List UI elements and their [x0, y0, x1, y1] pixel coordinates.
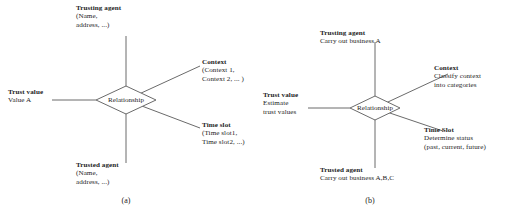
diagram-panel-b: Relationship Trusting agent Carry out bu…	[258, 0, 516, 218]
node-context-b-heading: Context	[434, 64, 481, 72]
node-trusting-agent-b: Trusting agent Carry out business A	[320, 29, 381, 46]
node-trust-value-a-detail1: Value A	[8, 96, 43, 104]
node-time-slot-b-detail1: Determine status	[424, 134, 486, 142]
node-trusting-agent-a-heading: Trusting agent	[76, 4, 121, 12]
caption-b: (b)	[340, 196, 400, 205]
node-time-slot-a-detail1: (Time slot1,	[202, 129, 245, 137]
node-context-a-detail2: Context 2, ... )	[202, 75, 244, 83]
figure-container: Relationship Trusting agent (Name, addre…	[0, 0, 516, 218]
node-trust-value-b-detail2: trust values	[263, 108, 298, 116]
diagram-panel-a: Relationship Trusting agent (Name, addre…	[0, 0, 258, 218]
node-trusted-agent-a-detail2: address, ...)	[76, 178, 119, 186]
diagram-a-lines	[0, 0, 258, 218]
node-trusted-agent-b-detail1: Carry out business A,B,C	[320, 174, 394, 182]
node-trusting-agent-a-detail1: (Name,	[76, 12, 121, 20]
node-context-b-detail2: into categories	[434, 81, 481, 89]
node-trusting-agent-b-heading: Trusting agent	[320, 29, 381, 37]
node-context-a-detail1: (Context 1,	[202, 66, 244, 74]
node-time-slot-a: Time slot (Time slot1, Time slot2, ...)	[202, 121, 245, 146]
node-context-a: Context (Context 1, Context 2, ... )	[202, 58, 244, 83]
node-context-a-heading: Context	[202, 58, 244, 66]
node-time-slot-a-heading: Time slot	[202, 121, 245, 129]
node-time-slot-b-heading: Time Slot	[424, 126, 486, 134]
node-trust-value-a: Trust value Value A	[8, 88, 43, 105]
node-context-b: Context Classify context into categories	[434, 64, 481, 89]
node-trust-value-b-detail1: Estimate	[263, 99, 298, 107]
node-time-slot-b-detail2: (past, current, future)	[424, 143, 486, 151]
node-trusted-agent-b: Trusted agent Carry out business A,B,C	[320, 166, 394, 183]
node-time-slot-b: Time Slot Determine status (past, curren…	[424, 126, 486, 151]
relationship-node-label: Relationship	[345, 104, 405, 112]
node-trust-value-a-heading: Trust value	[8, 88, 43, 96]
node-trust-value-b: Trust value Estimate trust values	[263, 91, 298, 116]
node-trusted-agent-a: Trusted agent (Name, address, ...)	[76, 161, 119, 186]
node-context-b-detail1: Classify context	[434, 72, 481, 80]
caption-a: (a)	[96, 196, 156, 205]
node-trusting-agent-a: Trusting agent (Name, address, ...)	[76, 4, 121, 29]
node-trusted-agent-b-heading: Trusted agent	[320, 166, 394, 174]
node-trusted-agent-a-detail1: (Name,	[76, 169, 119, 177]
node-trusting-agent-b-detail1: Carry out business A	[320, 37, 381, 45]
node-time-slot-a-detail2: Time slot2, ...)	[202, 138, 245, 146]
node-trust-value-b-heading: Trust value	[263, 91, 298, 99]
node-trusting-agent-a-detail2: address, ...)	[76, 21, 121, 29]
node-trusted-agent-a-heading: Trusted agent	[76, 161, 119, 169]
relationship-node-label: Relationship	[96, 96, 156, 104]
